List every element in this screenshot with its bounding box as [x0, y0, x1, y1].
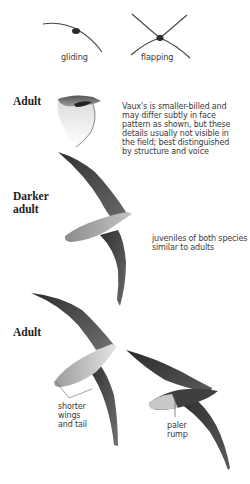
paler-rump-annotation: paler rump — [167, 421, 188, 439]
shorter-wings-annotation: shorter wings and tail — [58, 402, 87, 429]
annotation-line: shorter — [58, 402, 87, 411]
adult-upperside-flight-illustration — [0, 0, 250, 484]
annotation-line: rump — [167, 430, 188, 439]
annotation-line: paler — [167, 421, 188, 430]
annotation-line: and tail — [58, 420, 87, 429]
annotation-line: wings — [58, 411, 87, 420]
